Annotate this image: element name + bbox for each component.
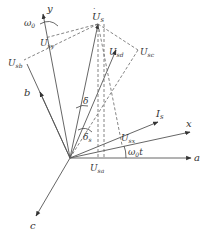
- angle-omega0t: ω0t: [124, 146, 143, 158]
- phasor-diagram: a x y b c Us · Usd Is Usy: [0, 0, 207, 234]
- axis-b-label: b: [24, 87, 30, 98]
- svg-text:δ: δ: [83, 96, 88, 106]
- label-usb: Usb: [8, 58, 23, 69]
- vector-usd-label: Usd: [109, 47, 124, 58]
- axis-y: y: [43, 3, 70, 158]
- angle-omega0: ω0: [24, 18, 58, 29]
- svg-text:ω0: ω0: [24, 18, 35, 29]
- axis-x-label: x: [186, 118, 192, 129]
- label-usa: Usa: [90, 163, 105, 174]
- axis-b: b: [24, 64, 70, 158]
- vector-is-label: Is: [155, 108, 164, 121]
- label-usy: Usy: [40, 38, 55, 50]
- svg-text:δs: δs: [83, 132, 92, 143]
- angle-delta-s: δs: [78, 128, 92, 143]
- axis-a-label: a: [194, 152, 200, 163]
- angle-delta: δ: [76, 96, 88, 108]
- svg-text:ω0t: ω0t: [128, 147, 143, 158]
- label-usx: Usx: [121, 133, 136, 144]
- svg-text:·: ·: [93, 4, 96, 13]
- axis-c: c: [30, 158, 70, 231]
- axis-c-label: c: [30, 220, 36, 231]
- axis-y-label: y: [46, 3, 53, 14]
- vector-usd: Usd: [70, 47, 124, 158]
- label-usc: Usc: [140, 47, 155, 58]
